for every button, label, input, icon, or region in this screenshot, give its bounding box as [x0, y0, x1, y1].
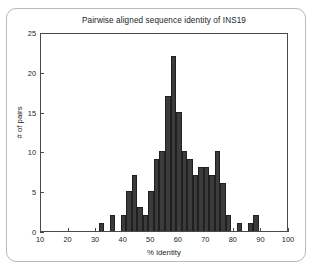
x-axis-tick — [95, 228, 96, 232]
x-axis-tick-label: 30 — [83, 235, 107, 244]
x-axis-tick — [123, 228, 124, 232]
y-axis-label: # of pairs — [15, 88, 24, 158]
x-axis-label: % identity — [40, 248, 288, 257]
x-axis-tick-label: 10 — [28, 235, 52, 244]
y-axis-tick — [40, 113, 44, 114]
x-axis-tick — [260, 228, 261, 232]
y-axis-tick-label: 20 — [10, 69, 36, 78]
figure-page: Pairwise aligned sequence identity of IN… — [0, 0, 313, 269]
x-axis-tick-label: 70 — [193, 235, 217, 244]
x-axis-tick-label: 80 — [221, 235, 245, 244]
x-axis-tick-label: 90 — [248, 235, 272, 244]
y-axis-tick — [40, 192, 44, 193]
y-axis-tick — [40, 73, 44, 74]
y-axis-tick — [40, 232, 44, 233]
x-axis-tick-label: 20 — [56, 235, 80, 244]
x-axis-tick — [150, 228, 151, 232]
x-axis-tick — [205, 228, 206, 232]
x-axis-tick-label: 40 — [111, 235, 135, 244]
x-axis-tick-label: 60 — [166, 235, 190, 244]
x-axis-tick-label: 100 — [276, 235, 300, 244]
x-axis-tick-label: 50 — [138, 235, 162, 244]
x-axis-tick — [233, 228, 234, 232]
x-axis-tick — [68, 228, 69, 232]
y-axis-tick-label: 25 — [10, 29, 36, 38]
x-axis-tick — [40, 228, 41, 232]
x-axis-tick — [178, 228, 179, 232]
y-axis-tick-label: 5 — [10, 188, 36, 197]
axes-decorations: 0510152025102030405060708090100 — [0, 0, 313, 269]
y-axis-tick — [40, 152, 44, 153]
histogram-figure: Pairwise aligned sequence identity of IN… — [0, 0, 313, 269]
y-axis-tick — [40, 33, 44, 34]
x-axis-tick — [288, 228, 289, 232]
